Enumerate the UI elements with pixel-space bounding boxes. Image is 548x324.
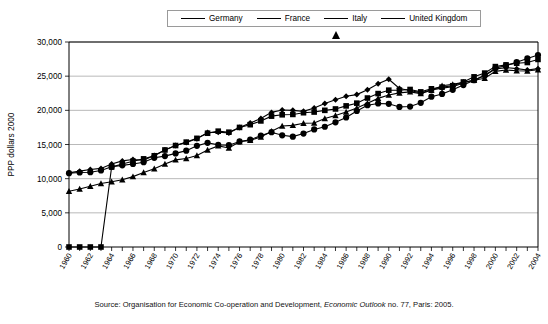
x-tick-label: 1988 (356, 252, 372, 271)
data-point (183, 148, 189, 154)
x-tick-label: 1970 (164, 252, 180, 271)
data-point (269, 113, 275, 119)
data-point (343, 93, 349, 99)
circle-icon (381, 13, 405, 24)
data-point (279, 112, 285, 118)
data-point (535, 52, 541, 58)
x-tick-label: 2004 (526, 252, 542, 271)
source-italic-title: Economic Outlook (324, 300, 386, 309)
legend-label-united-kingdom: United Kingdom (409, 14, 467, 23)
data-point (215, 128, 221, 134)
data-point (258, 118, 264, 124)
data-point (396, 104, 402, 110)
legend-item-united-kingdom: United Kingdom (381, 13, 467, 24)
data-point (247, 122, 253, 128)
x-tick-label: 1986 (335, 252, 351, 271)
x-tick-label: 1994 (420, 252, 436, 271)
data-point (258, 133, 264, 139)
data-point (162, 153, 168, 159)
data-point (492, 65, 498, 71)
legend-label-germany: Germany (209, 14, 243, 23)
data-point (460, 82, 466, 88)
data-point (151, 155, 157, 161)
data-point (247, 137, 253, 143)
data-point (205, 130, 211, 136)
x-tick-label: 1998 (463, 252, 479, 271)
x-tick-label: 2000 (484, 252, 500, 271)
y-tick-label: 10,000 (37, 175, 62, 184)
data-point (66, 170, 72, 176)
data-point (88, 244, 94, 250)
x-tick-label: 1968 (143, 252, 159, 271)
data-point (386, 101, 392, 107)
x-tick-label: 1996 (441, 252, 457, 271)
data-point (151, 166, 157, 172)
y-tick-label: 25,000 (37, 72, 62, 81)
data-point (418, 100, 424, 106)
x-tick-label: 1974 (207, 252, 223, 271)
source-suffix: no. 77, Paris: 2005. (386, 300, 454, 309)
data-point (375, 100, 381, 106)
data-point (77, 169, 83, 175)
data-point (354, 92, 360, 98)
x-tick-label: 1976 (228, 252, 244, 271)
x-tick-label: 1990 (377, 252, 393, 271)
data-point (109, 164, 115, 170)
data-point (514, 59, 520, 65)
x-tick-label: 1984 (313, 252, 329, 271)
data-point (77, 244, 83, 250)
data-point (87, 169, 93, 175)
data-point (343, 109, 349, 115)
data-point (215, 142, 221, 148)
data-point (428, 94, 434, 100)
data-point (524, 55, 530, 61)
data-point (162, 147, 168, 153)
y-tick-label: 20,000 (37, 106, 62, 115)
data-point (98, 244, 104, 250)
chart-plot-area: 05,00010,00015,00020,00025,00030,0001960… (0, 30, 548, 285)
data-point (343, 103, 349, 109)
y-tick-label: 0 (57, 243, 62, 252)
data-point (322, 101, 328, 107)
data-point (183, 139, 189, 145)
diamond-icon (181, 13, 205, 24)
y-tick-label: 5,000 (42, 209, 63, 218)
x-tick-label: 1972 (185, 252, 201, 271)
data-point (333, 106, 339, 112)
data-point (311, 126, 317, 132)
data-point (226, 129, 232, 135)
data-point (301, 110, 307, 116)
chart-legend: Germany France Italy United Kingdom (167, 10, 481, 27)
y-tick-label: 15,000 (37, 141, 62, 150)
data-point (141, 159, 147, 165)
square-icon (257, 13, 281, 24)
legend-label-france: France (285, 14, 310, 23)
legend-label-italy: Italy (352, 14, 367, 23)
data-point (204, 140, 210, 146)
legend-item-germany: Germany (181, 13, 243, 24)
data-point (471, 77, 477, 83)
x-tick-label: 1964 (100, 252, 116, 271)
data-point (130, 173, 136, 179)
data-point (204, 147, 210, 153)
source-prefix: Source: Organisation for Economic Co-ope… (94, 300, 324, 309)
chart-figure: Germany France Italy United Kingdom 05,0… (0, 0, 548, 324)
x-tick-label: 1962 (79, 252, 95, 271)
x-tick-label: 1992 (399, 252, 415, 271)
x-tick-label: 1982 (292, 252, 308, 271)
data-point (322, 124, 328, 130)
data-point (290, 134, 296, 140)
data-point (194, 136, 200, 142)
data-point (450, 87, 456, 93)
data-point (268, 129, 274, 135)
data-point (322, 108, 328, 114)
x-tick-label: 1960 (57, 252, 73, 271)
data-point (279, 132, 285, 138)
line-chart-svg: 05,00010,00015,00020,00025,00030,0001960… (0, 30, 548, 285)
data-point (66, 244, 72, 250)
data-point (332, 97, 338, 103)
series-italy (66, 66, 541, 194)
data-point (354, 108, 360, 114)
x-tick-label: 2002 (505, 252, 521, 271)
data-point (130, 161, 136, 167)
